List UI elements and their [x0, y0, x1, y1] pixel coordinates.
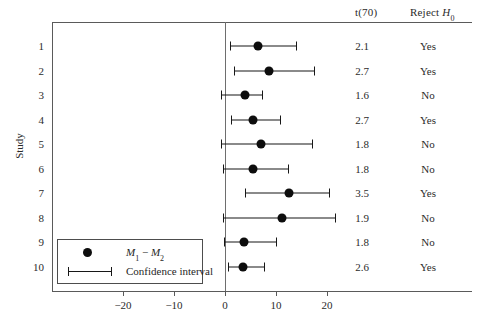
- cell-reject-h0: No: [404, 163, 452, 175]
- y-tick-label-study-10: 10: [0, 261, 44, 273]
- cell-reject-h0: Yes: [404, 261, 452, 273]
- cell-reject-h0: Yes: [404, 114, 452, 126]
- x-tick-label--20: −20: [114, 299, 131, 311]
- confidence-interval-line: [230, 46, 296, 47]
- filled-circle-icon: [83, 248, 92, 257]
- confidence-interval-cap-right: [262, 91, 263, 100]
- confidence-interval-line: [234, 70, 314, 71]
- legend-label-confidence-interval: Confidence interval: [126, 263, 213, 279]
- legend-m1-sub: 1: [135, 254, 139, 263]
- x-tick-mark-0: [225, 291, 226, 296]
- confidence-interval-cap-right: [288, 164, 289, 173]
- confidence-interval-cap-left: [223, 213, 224, 222]
- confidence-interval-cap-right: [264, 262, 265, 271]
- cell-reject-h0: No: [404, 236, 452, 248]
- y-tick-label-study-5: 5: [0, 138, 44, 150]
- legend-minus: −: [139, 246, 151, 258]
- confidence-interval-cap-left: [221, 140, 222, 149]
- x-tick-label-10: 10: [271, 299, 282, 311]
- legend-box: M1 − M2 Confidence interval: [57, 239, 203, 284]
- cell-t-statistic: 3.5: [341, 187, 383, 199]
- cell-reject-h0: Yes: [404, 187, 452, 199]
- x-tick-mark--10: [174, 291, 175, 296]
- confidence-interval-cap-right: [276, 238, 277, 247]
- mean-difference-point: [278, 213, 287, 222]
- x-tick-mark--20: [123, 291, 124, 296]
- column-header-reject-h0: Reject H0: [410, 6, 455, 21]
- confidence-interval-cap-right: [329, 189, 330, 198]
- cell-t-statistic: 2.1: [341, 40, 383, 52]
- legend-m1: M: [126, 246, 135, 258]
- cell-t-statistic: 2.6: [341, 261, 383, 273]
- zero-reference-line: [225, 22, 226, 292]
- y-tick-label-study-2: 2: [0, 65, 44, 77]
- x-tick-mark-20: [327, 291, 328, 296]
- cell-reject-h0: No: [404, 138, 452, 150]
- y-tick-label-study-9: 9: [0, 236, 44, 248]
- confidence-interval-cap-right: [296, 42, 297, 51]
- mean-difference-point: [264, 66, 273, 75]
- cell-reject-h0: No: [404, 89, 452, 101]
- confidence-interval-line: [224, 242, 276, 243]
- mean-difference-point: [249, 164, 258, 173]
- confidence-interval-cap-right: [314, 66, 315, 75]
- legend-m2-sub: 2: [160, 254, 164, 263]
- cell-reject-h0: Yes: [404, 40, 452, 52]
- error-bar-icon: [68, 271, 112, 272]
- mean-difference-point: [238, 262, 247, 271]
- forest-plot-figure: t(70) Reject H0 Study 12345678910 −20−10…: [0, 0, 493, 321]
- legend-key-confidence-interval: [64, 263, 122, 279]
- x-tick-mark-10: [276, 291, 277, 296]
- cell-t-statistic: 1.6: [341, 89, 383, 101]
- confidence-interval-cap-right: [335, 213, 336, 222]
- cell-t-statistic: 1.8: [341, 138, 383, 150]
- error-bar-cap-right-icon: [111, 267, 112, 276]
- error-bar-cap-left-icon: [68, 267, 69, 276]
- mean-difference-point: [249, 115, 258, 124]
- y-tick-label-study-8: 8: [0, 212, 44, 224]
- y-axis-line: [52, 22, 53, 292]
- confidence-interval-cap-right: [280, 115, 281, 124]
- legend-label-estimate: M1 − M2: [126, 244, 164, 265]
- reject-header-text: Reject: [410, 6, 442, 18]
- cell-t-statistic: 1.8: [341, 163, 383, 175]
- cell-t-statistic: 1.8: [341, 236, 383, 248]
- mean-difference-point: [240, 238, 249, 247]
- confidence-interval-cap-left: [234, 66, 235, 75]
- mean-difference-point: [284, 189, 293, 198]
- legend-row-estimate: M1 − M2: [58, 244, 202, 260]
- column-header-t-statistic: t(70): [355, 6, 377, 18]
- legend-key-estimate: [64, 244, 122, 260]
- y-tick-label-study-7: 7: [0, 187, 44, 199]
- confidence-interval-cap-left: [224, 238, 225, 247]
- mean-difference-point: [240, 91, 249, 100]
- top-rule: [52, 22, 472, 23]
- confidence-interval-line: [221, 144, 311, 145]
- cell-t-statistic: 1.9: [341, 212, 383, 224]
- cell-reject-h0: Yes: [404, 65, 452, 77]
- mean-difference-point: [254, 42, 263, 51]
- cell-t-statistic: 2.7: [341, 65, 383, 77]
- y-tick-label-study-3: 3: [0, 89, 44, 101]
- confidence-interval-cap-left: [230, 42, 231, 51]
- confidence-interval-cap-right: [312, 140, 313, 149]
- confidence-interval-cap-left: [228, 262, 229, 271]
- cell-reject-h0: No: [404, 212, 452, 224]
- legend-row-confidence-interval: Confidence interval: [58, 263, 202, 279]
- confidence-interval-cap-left: [245, 189, 246, 198]
- x-tick-label-20: 20: [322, 299, 333, 311]
- y-tick-label-study-6: 6: [0, 163, 44, 175]
- x-axis-line: [52, 291, 472, 292]
- y-tick-label-study-1: 1: [0, 40, 44, 52]
- cell-t-statistic: 2.7: [341, 114, 383, 126]
- y-tick-label-study-4: 4: [0, 114, 44, 126]
- x-tick-label--10: −10: [165, 299, 182, 311]
- legend-m2: M: [151, 246, 160, 258]
- confidence-interval-cap-left: [221, 91, 222, 100]
- confidence-interval-cap-left: [231, 115, 232, 124]
- mean-difference-point: [256, 140, 265, 149]
- x-tick-label-0: 0: [222, 299, 228, 311]
- confidence-interval-cap-left: [223, 164, 224, 173]
